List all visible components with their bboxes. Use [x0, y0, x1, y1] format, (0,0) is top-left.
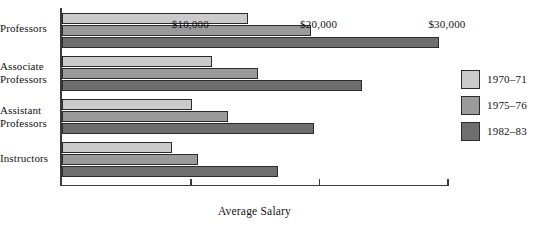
x-axis-tick: [447, 179, 449, 186]
bar: [62, 13, 248, 24]
legend-label: 1975–76: [487, 99, 527, 111]
plot-area: $10,000$20,000$30,000: [62, 8, 447, 186]
legend-label: 1982–83: [487, 125, 527, 137]
category-label-instructors: Instructors: [0, 152, 55, 165]
bar: [62, 99, 192, 110]
x-axis-tick-label: $10,000: [172, 18, 209, 30]
legend-swatch-icon: [461, 96, 480, 115]
x-axis-tick-label: $30,000: [428, 18, 465, 30]
bar: [62, 37, 439, 48]
bar: [62, 56, 212, 67]
bar: [62, 68, 258, 79]
bar: [62, 80, 362, 91]
x-axis-title: Average Salary: [62, 205, 447, 217]
x-axis-line: [60, 185, 447, 187]
x-axis-tick-label: $20,000: [300, 18, 337, 30]
x-axis-tick: [190, 179, 192, 186]
legend-item: 1975–76: [461, 96, 535, 118]
legend: 1970–71 1975–76 1982–83: [461, 70, 535, 148]
bar: [62, 154, 198, 165]
x-axis-tick: [319, 179, 321, 186]
bar: [62, 142, 172, 153]
legend-swatch-icon: [461, 122, 480, 141]
bar: [62, 111, 228, 122]
bar: [62, 166, 278, 177]
category-label-associate-professors: Associate Professors: [0, 60, 55, 85]
legend-swatch-icon: [461, 70, 480, 89]
category-label-assistant-professors: Assistant Professors: [0, 104, 55, 129]
bar-chart: Professors Associate Professors Assistan…: [0, 0, 537, 225]
category-axis-labels: Professors Associate Professors Assistan…: [0, 0, 58, 186]
legend-item: 1970–71: [461, 70, 535, 92]
category-label-professors: Professors: [0, 22, 55, 35]
legend-label: 1970–71: [487, 73, 527, 85]
bar: [62, 123, 314, 134]
legend-item: 1982–83: [461, 122, 535, 144]
